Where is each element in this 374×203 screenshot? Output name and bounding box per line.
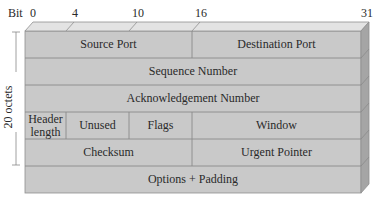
field-destination-port: Destination Port <box>192 31 361 58</box>
bit-tick-4: 4 <box>72 7 78 19</box>
bit-tick-31: 31 <box>361 7 373 19</box>
bit-axis-label: Bit <box>8 7 23 19</box>
field-urgent-pointer: Urgent Pointer <box>192 139 361 166</box>
field-header-length: Header length <box>25 112 66 139</box>
field-unused: Unused <box>66 112 129 139</box>
size-annotation: 20 octets <box>1 77 15 137</box>
bit-tick-0: 0 <box>30 7 36 19</box>
field-options-padding: Options + Padding <box>25 166 361 193</box>
bit-tick-16: 16 <box>195 7 207 19</box>
field-checksum: Checksum <box>25 139 192 166</box>
field-window: Window <box>192 112 361 139</box>
field-acknowledgement-number: Acknowledgement Number <box>25 85 361 112</box>
field-sequence-number: Sequence Number <box>25 58 361 85</box>
field-source-port: Source Port <box>25 31 192 58</box>
field-flags: Flags <box>129 112 192 139</box>
bit-tick-10: 10 <box>132 7 144 19</box>
